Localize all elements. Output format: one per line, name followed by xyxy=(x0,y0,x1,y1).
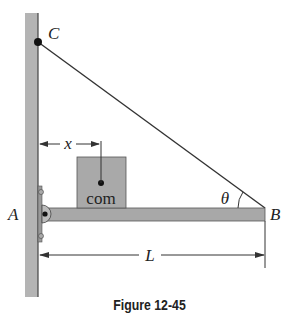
com-label: com xyxy=(86,189,115,208)
beam-diagram: com x L θ C A B xyxy=(0,0,299,325)
point-c-dot xyxy=(34,38,42,46)
hinge-pin xyxy=(42,211,47,216)
angle-arc xyxy=(238,192,243,208)
cable xyxy=(38,42,265,208)
point-a-label: A xyxy=(7,205,19,224)
point-c-label: C xyxy=(48,24,60,43)
x-arrow-left xyxy=(39,141,48,147)
theta-label: θ xyxy=(221,189,229,208)
l-arrow-right xyxy=(255,252,265,258)
x-arrow-right xyxy=(91,141,100,147)
point-b-label: B xyxy=(270,205,281,224)
hinge-bolt-top xyxy=(39,190,44,195)
wall xyxy=(25,13,38,297)
l-arrow-left xyxy=(39,252,49,258)
l-label: L xyxy=(144,246,154,265)
beam xyxy=(40,208,265,221)
figure-caption: Figure 12-45 xyxy=(27,296,272,313)
hinge-bolt-bottom xyxy=(39,234,44,239)
x-label: x xyxy=(63,134,72,153)
